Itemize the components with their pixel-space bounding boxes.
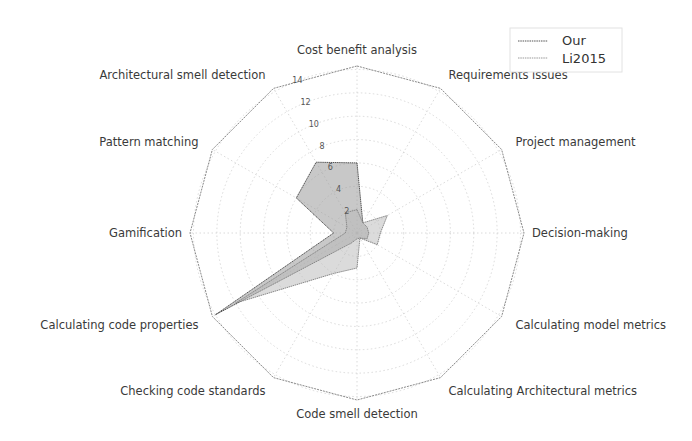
legend: Our Li2015 (510, 28, 622, 72)
radial-tick-label: 8 (320, 142, 325, 151)
axis-label: Calculating model metrics (515, 318, 666, 332)
radial-tick-label: 10 (309, 120, 319, 129)
axis-label: Calculating code properties (40, 318, 198, 332)
legend-label-li2015: Li2015 (562, 51, 606, 66)
legend-label-our: Our (562, 33, 586, 48)
axis-label: Gamification (109, 226, 182, 240)
radar-series (215, 162, 387, 315)
grid-spoke (357, 88, 441, 233)
radar-chart-canvas: 2468101214 Cost benefit analysisRequirem… (0, 0, 692, 441)
radar-chart: 2468101214 Cost benefit analysisRequirem… (0, 0, 692, 441)
axis-label: Architectural smell detection (99, 68, 265, 82)
axis-label: Checking code standards (120, 384, 265, 398)
radial-tick-label: 12 (301, 98, 311, 107)
radial-tick-label: 2 (344, 207, 349, 216)
axis-label: Decision-making (532, 226, 628, 240)
radial-tick-label: 6 (328, 163, 333, 172)
radial-tick-label: 14 (292, 76, 302, 85)
grid-spoke (357, 233, 441, 378)
axis-label: Pattern matching (99, 135, 198, 149)
series-li2015 (236, 210, 388, 303)
axis-label: Calculating Architectural metrics (449, 384, 638, 398)
radial-tick-label: 4 (336, 185, 341, 194)
axis-label: Cost benefit analysis (297, 43, 417, 57)
grid-spoke (357, 233, 502, 317)
axis-label: Code smell detection (296, 407, 418, 421)
axis-label: Project management (515, 135, 636, 149)
